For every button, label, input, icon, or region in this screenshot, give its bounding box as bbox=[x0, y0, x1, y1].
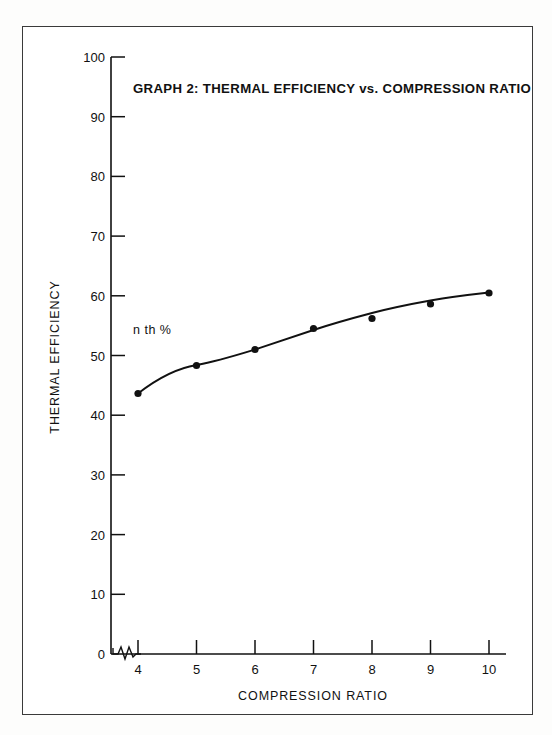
fitted-curve bbox=[138, 293, 489, 394]
x-tick-label-8: 8 bbox=[368, 662, 375, 677]
page-canvas: 100 90 80 70 60 50 40 30 20 10 0 bbox=[0, 0, 552, 735]
x-tick-label-5: 5 bbox=[193, 662, 200, 677]
y-tick-label-70: 70 bbox=[91, 229, 105, 244]
y-tick-label-0: 0 bbox=[98, 647, 105, 662]
x-tick-label-10: 10 bbox=[482, 662, 496, 677]
x-tick-label-7: 7 bbox=[310, 662, 317, 677]
x-axis-ticks bbox=[138, 640, 489, 654]
y-tick-label-10: 10 bbox=[91, 587, 105, 602]
x-axis-title: COMPRESSION RATIO bbox=[238, 689, 388, 703]
y-tick-label-100: 100 bbox=[83, 50, 105, 65]
y-tick-label-90: 90 bbox=[91, 110, 105, 125]
y-tick-label-80: 80 bbox=[91, 169, 105, 184]
data-point bbox=[251, 346, 258, 353]
x-tick-label-4: 4 bbox=[134, 662, 141, 677]
curve-annotation-eta-th: n th % bbox=[133, 323, 171, 337]
chart-title: GRAPH 2: THERMAL EFFICIENCY vs. COMPRESS… bbox=[133, 81, 531, 96]
chart-plot-area: 100 90 80 70 60 50 40 30 20 10 0 bbox=[23, 27, 532, 714]
data-point bbox=[310, 325, 317, 332]
figure-border: 100 90 80 70 60 50 40 30 20 10 0 bbox=[22, 26, 533, 715]
y-axis-title: THERMAL EFFICIENCY bbox=[48, 280, 62, 433]
y-tick-label-60: 60 bbox=[91, 289, 105, 304]
x-tick-label-6: 6 bbox=[251, 662, 258, 677]
data-point bbox=[485, 289, 492, 296]
x-axis-break-zigzag bbox=[113, 647, 141, 659]
y-tick-label-40: 40 bbox=[91, 408, 105, 423]
data-point bbox=[427, 300, 434, 307]
y-tick-label-30: 30 bbox=[91, 468, 105, 483]
data-point-markers bbox=[134, 289, 492, 397]
x-tick-label-9: 9 bbox=[427, 662, 434, 677]
data-point bbox=[193, 362, 200, 369]
y-tick-label-50: 50 bbox=[91, 349, 105, 364]
data-point bbox=[368, 315, 375, 322]
y-axis-ticks bbox=[111, 57, 125, 594]
y-tick-label-20: 20 bbox=[91, 528, 105, 543]
data-point bbox=[134, 390, 141, 397]
